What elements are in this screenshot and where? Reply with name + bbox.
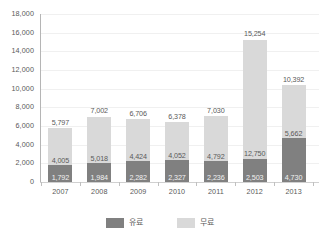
x-axis-tick-label: 2009: [119, 182, 158, 198]
bar-value-label-free: 4,005: [52, 157, 70, 164]
bar-segment-paid[interactable]: 1,792: [48, 165, 72, 182]
bar-series-group: 4,0051,7925,7975,0181,9847,0024,4242,282…: [41, 14, 313, 182]
legend-label: 무료: [200, 219, 214, 227]
y-axis-tick-label: 2,000: [16, 160, 35, 167]
x-axis-tickmark: [41, 182, 42, 186]
bar-segment-free[interactable]: 4,005: [48, 128, 72, 165]
bar-value-label-free: 4,052: [168, 152, 186, 159]
bar-value-label-free: 5,018: [91, 155, 109, 162]
bar-value-label-paid: 2,503: [246, 174, 264, 181]
bar-value-label-paid: 2,236: [207, 174, 225, 181]
bar-total-label: 5,797: [52, 119, 70, 126]
x-axis-tickmark: [235, 182, 236, 186]
bar-total-label: 15,254: [244, 30, 265, 37]
x-axis: 2007200820092010201120122013: [41, 182, 313, 198]
bar-total-label: 6,706: [129, 110, 147, 117]
bar-value-label-free: 12,750: [244, 150, 265, 157]
bar-segment-free[interactable]: 5,018: [87, 117, 111, 164]
bar-segment-free[interactable]: 12,750: [243, 40, 267, 159]
bar-segment-free[interactable]: 4,052: [165, 122, 189, 160]
bar-stack[interactable]: 12,7502,50315,254: [243, 40, 267, 182]
bar-segment-paid[interactable]: 4,730: [282, 138, 306, 182]
bar-stack[interactable]: 4,0051,7925,797: [48, 128, 72, 182]
x-axis-tickmark: [196, 182, 197, 186]
x-axis-tickmark: [80, 182, 81, 186]
y-axis-tick-label: 18,000: [11, 10, 34, 17]
x-axis-tick-label: 2007: [41, 182, 80, 198]
bar-stack[interactable]: 4,4242,2826,706: [126, 119, 150, 182]
legend-swatch: [106, 218, 124, 228]
bar-column[interactable]: 4,0051,7925,797: [41, 14, 80, 182]
legend-label: 유료: [129, 219, 143, 227]
legend-swatch: [177, 218, 195, 228]
y-axis-tick-label: 16,000: [11, 29, 34, 36]
bar-value-label-free: 5,662: [285, 130, 303, 137]
bar-value-label-free: 4,424: [129, 153, 147, 160]
bar-segment-paid[interactable]: 2,282: [126, 161, 150, 182]
chart-legend: 유료무료: [0, 218, 319, 228]
x-axis-tick-label: 2013: [274, 182, 313, 198]
x-axis-tickmark: [158, 182, 159, 186]
bar-column[interactable]: 12,7502,50315,254: [235, 14, 274, 182]
bar-value-label-paid: 1,792: [52, 174, 70, 181]
y-axis-tick-label: 10,000: [11, 85, 34, 92]
x-axis-tickmark: [119, 182, 120, 186]
y-axis-tick-label: 0: [30, 178, 34, 185]
stacked-bar-chart: 02,0004,0006,0008,00010,00012,00014,0001…: [0, 0, 319, 250]
bar-stack[interactable]: 4,7922,2367,030: [204, 116, 228, 182]
bar-segment-paid[interactable]: 2,327: [165, 160, 189, 182]
bar-column[interactable]: 5,6624,73010,392: [274, 14, 313, 182]
bar-segment-paid[interactable]: 2,503: [243, 159, 267, 182]
bar-segment-paid[interactable]: 1,984: [87, 163, 111, 182]
legend-item[interactable]: 유료: [106, 218, 143, 228]
bar-value-label-paid: 2,327: [168, 174, 186, 181]
bar-column[interactable]: 5,0181,9847,002: [80, 14, 119, 182]
bar-segment-free[interactable]: 4,792: [204, 116, 228, 161]
legend-item[interactable]: 무료: [177, 218, 214, 228]
bar-value-label-paid: 1,984: [91, 174, 109, 181]
x-axis-tick-label: 2008: [80, 182, 119, 198]
bar-stack[interactable]: 5,0181,9847,002: [87, 117, 111, 182]
bar-total-label: 7,030: [207, 107, 225, 114]
bar-total-label: 7,002: [91, 107, 109, 114]
bar-total-label: 6,378: [168, 113, 186, 120]
y-axis-tick-label: 12,000: [11, 66, 34, 73]
y-axis-tick-label: 6,000: [16, 122, 35, 129]
y-axis: 02,0004,0006,0008,00010,00012,00014,0001…: [0, 0, 38, 196]
bar-segment-paid[interactable]: 2,236: [204, 161, 228, 182]
y-axis-tick-label: 8,000: [16, 104, 35, 111]
bar-column[interactable]: 4,0522,3276,378: [158, 14, 197, 182]
x-axis-tick-label: 2011: [196, 182, 235, 198]
bar-column[interactable]: 4,7922,2367,030: [196, 14, 235, 182]
x-axis-tickmark: [313, 182, 314, 186]
x-axis-tick-label: 2012: [235, 182, 274, 198]
plot-area: 02,0004,0006,0008,00010,00012,00014,0001…: [0, 0, 319, 196]
bar-value-label-free: 4,792: [207, 153, 225, 160]
bar-column[interactable]: 4,4242,2826,706: [119, 14, 158, 182]
bar-segment-free[interactable]: 4,424: [126, 119, 150, 160]
bar-stack[interactable]: 4,0522,3276,378: [165, 122, 189, 182]
y-axis-tick-label: 14,000: [11, 48, 34, 55]
x-axis-tick-label: 2010: [158, 182, 197, 198]
bar-segment-free[interactable]: 5,662: [282, 85, 306, 138]
y-axis-tick-label: 4,000: [16, 141, 35, 148]
bar-value-label-paid: 4,730: [285, 174, 303, 181]
bar-value-label-paid: 2,282: [129, 174, 147, 181]
x-axis-tickmark: [274, 182, 275, 186]
bar-stack[interactable]: 5,6624,73010,392: [282, 85, 306, 182]
bar-total-label: 10,392: [283, 76, 304, 83]
